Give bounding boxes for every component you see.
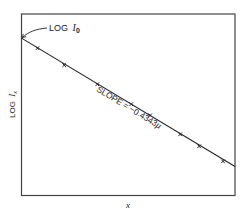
intercept-label: LOG I0 <box>49 22 80 34</box>
x-axis-label: x <box>125 200 130 210</box>
slope-label: SLOPE = −0.4343μ <box>95 84 164 131</box>
chart: LOG I0 SLOPE = −0.4343μ LOG Ix x <box>0 0 240 215</box>
y-axis-label: LOG Ix <box>7 91 18 118</box>
intercept-arrow <box>23 28 48 38</box>
data-point-marker <box>221 160 225 164</box>
